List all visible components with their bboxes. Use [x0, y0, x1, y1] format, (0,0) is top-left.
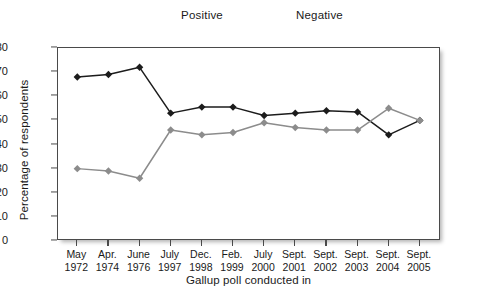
plot-canvas	[58, 48, 439, 239]
chart-legend: Positive Negative	[0, 9, 477, 21]
series-line	[77, 108, 420, 178]
data-point-marker	[167, 126, 174, 133]
x-tick-mark	[419, 240, 420, 246]
y-axis-label: Percentage of respondents	[18, 40, 30, 260]
data-point-marker	[198, 103, 205, 110]
x-tick-mark	[232, 240, 233, 246]
x-tick-mark	[357, 240, 358, 246]
data-point-marker	[416, 117, 423, 124]
data-point-marker	[136, 175, 143, 182]
chart-root: Positive Negative Percentage of responde…	[0, 0, 477, 296]
legend-label-negative: Negative	[296, 9, 343, 21]
legend-item-negative: Negative	[249, 9, 343, 21]
plot-area	[57, 47, 440, 240]
x-tick-mark	[76, 240, 77, 246]
series-line	[77, 67, 420, 135]
x-axis-label: Gallup poll conducted in	[57, 274, 440, 286]
y-tick-label: 30	[0, 162, 8, 174]
data-point-marker	[260, 119, 267, 126]
x-tick-mark	[294, 240, 295, 246]
x-tick-mark	[107, 240, 108, 246]
y-tick-label: 0	[0, 234, 8, 246]
legend-item-positive: Positive	[134, 9, 223, 21]
data-point-marker	[323, 107, 330, 114]
y-tick-label: 40	[0, 138, 8, 150]
diamond-icon	[148, 9, 161, 22]
y-tick-label: 60	[0, 89, 8, 101]
x-tick-label-line: Sept.	[391, 248, 447, 261]
series-layer	[58, 48, 441, 241]
y-tick-label: 80	[0, 41, 8, 53]
data-point-marker	[105, 167, 112, 174]
legend-label-positive: Positive	[181, 9, 223, 21]
y-tick-label: 50	[0, 113, 8, 125]
data-point-marker	[292, 124, 299, 131]
x-tick-mark	[201, 240, 202, 246]
data-point-marker	[74, 165, 81, 172]
legend-marker-negative	[249, 10, 291, 21]
data-point-marker	[105, 71, 112, 78]
data-point-marker	[292, 109, 299, 116]
x-tick-mark	[388, 240, 389, 246]
data-point-marker	[198, 131, 205, 138]
series-negative	[74, 105, 424, 182]
y-tick-label: 70	[0, 65, 8, 77]
x-tick-mark	[139, 240, 140, 246]
x-tick-label: Sept.2005	[391, 248, 447, 273]
data-point-marker	[260, 112, 267, 119]
data-point-marker	[229, 129, 236, 136]
x-tick-mark	[263, 240, 264, 246]
diamond-icon	[263, 9, 276, 22]
x-tick-mark	[170, 240, 171, 246]
x-tick-mark	[325, 240, 326, 246]
legend-marker-positive	[134, 10, 176, 21]
y-tick-label: 10	[0, 210, 8, 222]
x-tick-label-line: 2005	[391, 261, 447, 274]
y-tick-label: 20	[0, 186, 8, 198]
data-point-marker	[323, 126, 330, 133]
data-point-marker	[229, 103, 236, 110]
data-point-marker	[74, 73, 81, 80]
